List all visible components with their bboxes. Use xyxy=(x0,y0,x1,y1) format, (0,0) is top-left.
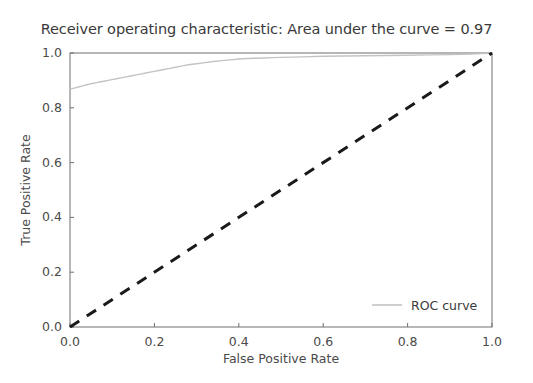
y-tick-label: 0.6 xyxy=(42,155,62,170)
y-axis-ticks: 0.00.20.40.60.81.0 xyxy=(42,45,74,334)
y-tick-label: 0.2 xyxy=(42,264,62,279)
y-axis-title: True Positive Rate xyxy=(18,134,33,247)
y-tick-label: 1.0 xyxy=(42,45,62,60)
y-tick-label: 0.0 xyxy=(42,319,62,334)
y-tick-label: 0.8 xyxy=(42,100,62,115)
x-tick-label: 0.4 xyxy=(229,334,249,349)
x-tick-label: 0.0 xyxy=(60,334,80,349)
x-tick-label: 0.6 xyxy=(313,334,333,349)
y-tick-label: 0.4 xyxy=(42,209,62,224)
plot-area: 0.00.20.40.60.81.0 0.00.20.40.60.81.0 Fa… xyxy=(0,0,533,383)
roc-chart-figure: Receiver operating characteristic: Area … xyxy=(0,0,533,383)
x-axis-title: False Positive Rate xyxy=(223,351,339,366)
x-tick-label: 0.8 xyxy=(398,334,418,349)
legend-item-label: ROC curve xyxy=(411,298,478,313)
x-tick-label: 1.0 xyxy=(482,334,502,349)
x-tick-label: 0.2 xyxy=(144,334,164,349)
